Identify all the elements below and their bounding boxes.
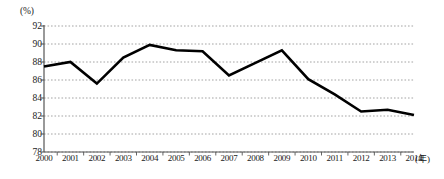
gridlines [44,26,414,152]
x-axis-tick-label: 2008 [247,153,264,163]
x-axis-tick-label: 2010 [300,153,317,163]
x-axis-tick-label: 2000 [36,153,53,163]
x-axis-tick-label: 2012 [353,153,370,163]
x-axis-tick-label: 2014 [406,153,423,163]
x-axis-tick-label: 2004 [141,153,158,163]
axis-lines [44,25,414,152]
x-axis-tick-label: 2006 [194,153,211,163]
x-axis-tick-label: 2005 [168,153,185,163]
x-axis-tick-label: 2001 [62,153,79,163]
data-series-line [44,45,414,115]
x-axis-tick-label: 2011 [326,153,342,163]
x-axis-tick-label: 2013 [379,153,396,163]
x-axis-tick-label: 2003 [115,153,132,163]
x-axis-tick-label: 2009 [273,153,290,163]
x-axis-tick-label: 2007 [221,153,238,163]
x-axis-tick-label: 2002 [88,153,105,163]
line-chart: (%) 7880828486889092 (年) 200020012002200… [0,0,444,179]
